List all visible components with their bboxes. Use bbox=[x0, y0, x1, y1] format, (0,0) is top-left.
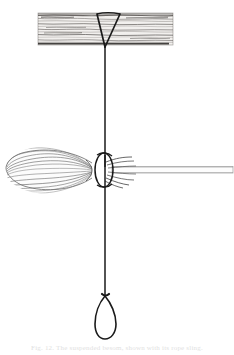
bottom-loop bbox=[95, 296, 116, 339]
broom-handle-group bbox=[112, 167, 233, 174]
besom-broom-illustration bbox=[0, 0, 234, 355]
bottom-loop-group bbox=[95, 294, 116, 339]
figure-caption: Fig. 12. The suspended besom, shown with… bbox=[0, 344, 234, 353]
twig-end bbox=[107, 161, 134, 165]
figure-container: Fig. 12. The suspended besom, shown with… bbox=[0, 0, 234, 355]
beam-group bbox=[38, 13, 173, 45]
binding-loop-group bbox=[95, 153, 113, 187]
binding-loop-outer bbox=[95, 153, 113, 187]
broom-head-group bbox=[6, 148, 92, 193]
